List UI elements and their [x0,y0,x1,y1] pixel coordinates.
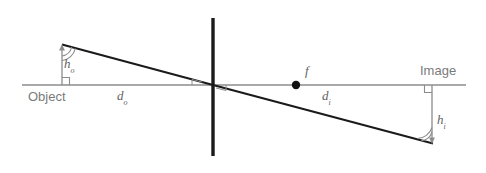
object-distance-label: do [117,89,128,106]
object-label: Object [28,90,66,103]
object-height-subscript: o [71,66,75,75]
image-right-angle-mark [425,85,433,93]
object-right-angle-mark [62,78,70,86]
image-height-label: hi [437,113,446,130]
image-distance-subscript: i [329,98,331,107]
image-height-subscript: i [444,122,446,131]
image-label: Image [420,64,456,77]
lens-ray-diagram: Object Image do di ho hi f [0,0,486,173]
focal-point-label: f [305,64,309,77]
image-distance-label: di [322,89,331,106]
focal-point-dot [292,81,300,89]
image-height-symbol: h [437,112,444,127]
incident-ray [62,45,213,86]
object-distance-subscript: o [124,98,128,107]
object-height-symbol: h [64,56,71,71]
object-height-label: ho [64,57,75,74]
object-distance-symbol: d [117,88,124,103]
image-distance-symbol: d [322,88,329,103]
diagram-canvas [0,0,486,173]
